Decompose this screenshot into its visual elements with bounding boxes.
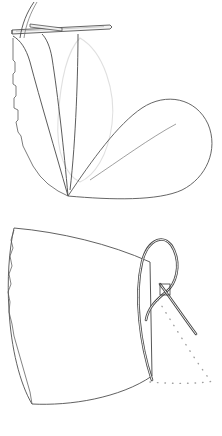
bottom-panel — [0, 218, 222, 436]
figure-root — [0, 0, 222, 436]
top-panel-canvas — [0, 0, 222, 218]
bottom-panel-background — [0, 218, 222, 436]
bottom-panel-canvas — [0, 218, 222, 436]
top-panel — [0, 0, 222, 218]
